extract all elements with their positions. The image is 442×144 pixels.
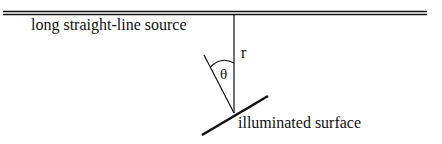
line-source (3, 12, 427, 15)
diagram-canvas: long straight-line source r θ illuminate… (0, 0, 442, 144)
source-label: long straight-line source (31, 17, 187, 33)
angle-label: θ (220, 67, 227, 82)
distance-label: r (241, 45, 246, 61)
surface-label: illuminated surface (238, 115, 361, 131)
surface-normal-line (204, 55, 234, 113)
